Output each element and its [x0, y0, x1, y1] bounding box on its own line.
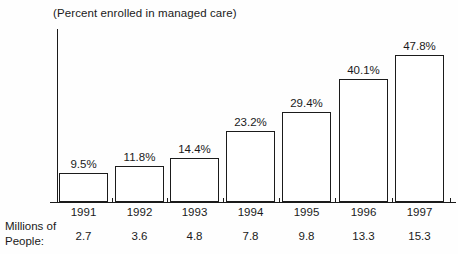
x-axis-tick-4 — [335, 198, 336, 203]
millions-value-1997: 15.3 — [385, 229, 455, 243]
bar-1995 — [282, 112, 331, 202]
x-axis-tick-3 — [279, 198, 280, 203]
bar-1997 — [395, 55, 444, 202]
year-label-1997: 1997 — [385, 205, 455, 219]
x-axis-tick-1 — [167, 198, 168, 203]
bar-value-label-1996: 40.1% — [329, 64, 399, 77]
x-axis-tick-0 — [112, 198, 113, 203]
x-axis-tick-6 — [450, 198, 451, 203]
bar-value-label-1994: 23.2% — [216, 116, 286, 129]
bar-1992 — [115, 166, 164, 202]
x-axis-tick-2 — [223, 198, 224, 203]
bar-value-label-1997: 47.8% — [385, 40, 455, 53]
bar-1996 — [339, 79, 388, 202]
bar-chart: (Percent enrolled in managed care) 9.5%1… — [0, 0, 458, 254]
bar-value-label-1993: 14.4% — [160, 143, 230, 156]
bar-1991 — [59, 173, 108, 202]
bar-1993 — [170, 158, 219, 202]
bar-value-label-1995: 29.4% — [272, 97, 342, 110]
bar-1994 — [226, 131, 275, 202]
x-axis-tick-5 — [392, 198, 393, 203]
